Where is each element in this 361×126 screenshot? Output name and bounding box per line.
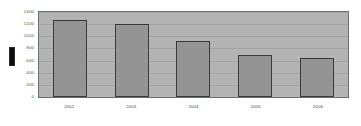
bar-2006 bbox=[300, 58, 334, 97]
y-axis-tick-label: 1000 bbox=[24, 33, 34, 38]
x-axis-tick-label: 2006 bbox=[287, 100, 349, 114]
y-axis-tick-label: 0 bbox=[31, 94, 34, 99]
bar-2003 bbox=[115, 24, 149, 97]
bar-slot bbox=[101, 12, 163, 97]
bar-2005 bbox=[238, 55, 272, 97]
bar-slot bbox=[39, 12, 101, 97]
plot-area bbox=[38, 11, 349, 98]
bar-slot bbox=[286, 12, 348, 97]
y-axis-tick-label: 200 bbox=[26, 81, 34, 86]
y-axis-tick-label: 1400 bbox=[24, 9, 34, 14]
y-axis-tick-label: 1200 bbox=[24, 21, 34, 26]
bar-chart-figure: 0200400600800100012001400 20022003200420… bbox=[0, 0, 361, 126]
bar-slot bbox=[163, 12, 225, 97]
x-axis-tick-label: 2002 bbox=[38, 100, 100, 114]
x-axis-tick-label: 2005 bbox=[225, 100, 287, 114]
x-axis-tick-label: 2004 bbox=[162, 100, 224, 114]
bar-2002 bbox=[53, 20, 87, 97]
y-axis: 0200400600800100012001400 bbox=[0, 0, 38, 126]
bar-slot bbox=[224, 12, 286, 97]
x-axis-tick-label: 2003 bbox=[100, 100, 162, 114]
y-axis-tick-label: 400 bbox=[26, 69, 34, 74]
bars-container bbox=[39, 12, 348, 97]
x-axis: 20022003200420052006 bbox=[38, 100, 349, 114]
bar-2004 bbox=[176, 41, 210, 97]
y-axis-tick-label: 600 bbox=[26, 57, 34, 62]
y-axis-tick-label: 800 bbox=[26, 45, 34, 50]
